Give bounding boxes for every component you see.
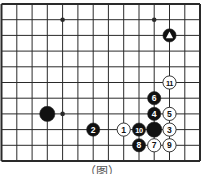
diagram-caption: （图） xyxy=(0,166,204,174)
stones-layer: 1234567891011 xyxy=(40,29,176,152)
white-stone-7: 7 xyxy=(148,139,161,152)
go-board-diagram: 1234567891011 xyxy=(0,0,204,174)
move-number-label: 5 xyxy=(167,109,172,119)
black-stone-4: 4 xyxy=(148,107,161,120)
black-stone xyxy=(147,122,162,137)
move-number-label: 10 xyxy=(135,126,143,135)
move-number-label: 4 xyxy=(152,109,157,119)
move-number-label: 8 xyxy=(137,140,142,150)
move-number-label: 11 xyxy=(166,79,173,88)
black-stone xyxy=(163,29,176,42)
move-number-label: 2 xyxy=(91,125,96,135)
move-number-label: 3 xyxy=(167,125,172,135)
move-number-label: 6 xyxy=(152,93,157,103)
star-point-icon xyxy=(60,17,65,22)
white-stone-11: 11 xyxy=(163,76,176,89)
black-stone-icon xyxy=(147,122,162,137)
move-number-label: 7 xyxy=(152,140,157,150)
white-stone-3: 3 xyxy=(163,123,176,136)
black-stone-icon xyxy=(40,106,55,121)
black-stone xyxy=(40,106,55,121)
black-stone-8: 8 xyxy=(132,139,145,152)
star-point-icon xyxy=(152,17,157,22)
star-point-icon xyxy=(60,112,65,117)
move-number-label: 9 xyxy=(167,140,172,150)
black-stone-2: 2 xyxy=(87,123,100,136)
white-stone-9: 9 xyxy=(163,139,176,152)
white-stone-1: 1 xyxy=(117,123,130,136)
move-number-label: 1 xyxy=(121,125,126,135)
white-stone-5: 5 xyxy=(163,107,176,120)
black-stone-10: 10 xyxy=(132,123,145,136)
black-stone-6: 6 xyxy=(148,92,161,105)
